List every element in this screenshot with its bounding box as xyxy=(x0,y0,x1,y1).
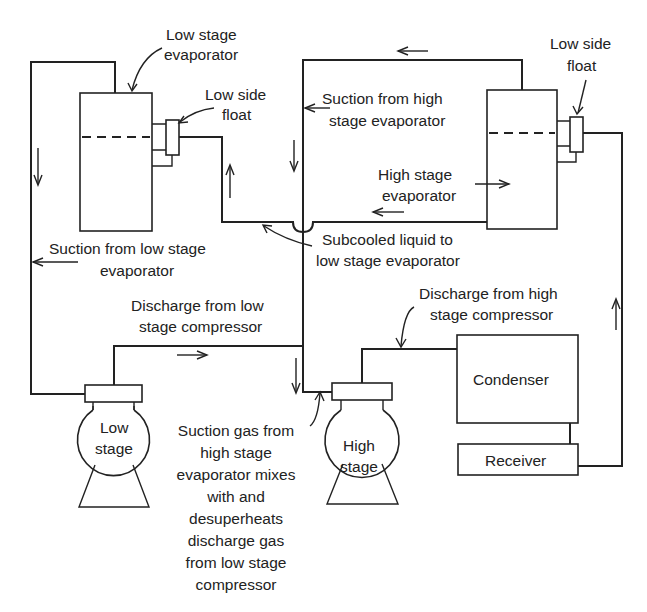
label-low-side-float-left-1: Low side xyxy=(205,86,266,103)
suction-gas-mix-line: with and xyxy=(206,488,265,505)
label-high-stage-evaporator-2: evaporator xyxy=(382,187,456,204)
suction-gas-mix-line: high stage xyxy=(200,444,272,461)
label-discharge-high-1: Discharge from high xyxy=(419,285,558,302)
arrow-down-icon xyxy=(290,140,298,171)
high-stage-discharge-line xyxy=(362,349,457,383)
label-suction-low-2: evaporator xyxy=(100,262,174,279)
label-high-stage-evaporator-1: High stage xyxy=(378,166,452,183)
label-subcooled-1: Subcooled liquid to xyxy=(322,231,453,248)
high-stage-evaporator xyxy=(487,90,583,229)
label-low-side-float-left-2: float xyxy=(222,106,252,123)
arrow-down-icon xyxy=(34,148,42,185)
suction-gas-mix-line: Suction gas from xyxy=(178,422,294,439)
label-high-stage-compressor-1: High xyxy=(343,437,375,454)
suction-gas-mix-line: discharge gas xyxy=(188,532,285,549)
low-stage-discharge-line xyxy=(114,346,303,385)
label-discharge-high-2: stage compressor xyxy=(430,306,553,323)
label-high-stage-compressor-2: stage xyxy=(340,458,378,475)
label-low-side-float-right-1: Low side xyxy=(550,35,611,52)
low-side-float-right xyxy=(570,117,583,152)
low-stage-liquid-line xyxy=(179,137,293,222)
label-low-stage-compressor-1: Low xyxy=(100,419,129,436)
label-low-side-float-right-2: float xyxy=(567,57,597,74)
low-side-float-left xyxy=(166,120,179,155)
label-low-stage-evaporator-1: Low stage xyxy=(166,26,237,43)
label-suction-low-1: Suction from low stage xyxy=(49,240,206,257)
suction-gas-mix-line: desuperheats xyxy=(189,510,283,527)
label-suction-gas-mix: Suction gas from high stage evaporator m… xyxy=(177,422,296,593)
label-suction-high-2: stage evaporator xyxy=(329,112,445,129)
arrow-left-icon xyxy=(398,47,428,55)
suction-gas-mix-line: from low stage xyxy=(186,554,287,571)
suction-gas-mix-line: compressor xyxy=(196,576,277,593)
label-suction-high-1: Suction from high xyxy=(322,90,443,107)
label-discharge-low-1: Discharge from low xyxy=(131,297,264,314)
suction-gas-mix-line: evaporator mixes xyxy=(177,466,296,483)
arrow-up-icon xyxy=(226,165,234,198)
low-stage-evaporator xyxy=(80,93,179,231)
label-receiver: Receiver xyxy=(485,452,546,469)
label-low-stage-evaporator-2: evaporator xyxy=(164,46,238,63)
refrigeration-diagram: Low stage evaporator Low side float Low … xyxy=(0,0,647,612)
arrow-left-icon xyxy=(33,258,78,266)
arrow-down-icon xyxy=(292,358,300,393)
label-subcooled-2: low stage evaporator xyxy=(316,252,460,269)
arrow-up-icon xyxy=(612,299,620,330)
label-low-stage-compressor-2: stage xyxy=(95,440,133,457)
arrow-left-icon xyxy=(373,208,404,216)
arrow-right-icon xyxy=(177,351,207,359)
label-discharge-low-2: stage compressor xyxy=(139,318,262,335)
label-condenser: Condenser xyxy=(473,371,549,388)
